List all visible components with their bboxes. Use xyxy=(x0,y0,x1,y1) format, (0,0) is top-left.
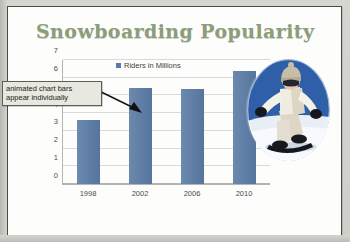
y-axis-tick-label: 6 xyxy=(54,63,58,72)
y-axis-tick-label: 0 xyxy=(54,171,58,180)
x-axis-labels: 1998200220062010 xyxy=(62,189,270,203)
callout-line-2: appear individually xyxy=(6,93,98,102)
scan-edge-left xyxy=(0,0,7,242)
plot-area: 01234567 xyxy=(62,60,270,185)
bar-chart: 01234567 1998200220062010 Riders in Mill… xyxy=(24,52,274,207)
x-axis-tick-label: 2006 xyxy=(166,189,218,203)
bar-cell xyxy=(115,60,167,184)
y-axis-tick-label: 1 xyxy=(54,153,58,162)
bar-series xyxy=(63,60,270,184)
scan-edge-bottom xyxy=(0,235,350,242)
bar-cell xyxy=(63,60,115,184)
y-axis-tick-label: 2 xyxy=(54,135,58,144)
snowboarder-photo xyxy=(247,59,330,161)
callout-line-1: animated chart bars xyxy=(6,84,98,93)
chart-bar xyxy=(181,89,204,184)
page-title: Snowboarding Popularity xyxy=(36,20,314,42)
legend-swatch-icon xyxy=(116,63,121,68)
y-axis-tick-label: 3 xyxy=(54,117,58,126)
chart-legend: Riders in Millions xyxy=(116,61,181,70)
chart-bar xyxy=(77,120,100,184)
legend-label: Riders in Millions xyxy=(124,61,181,70)
y-axis-tick-label: 7 xyxy=(54,46,58,55)
x-axis-tick-label: 1998 xyxy=(62,189,114,203)
screenshot-root: Snowboarding Popularity 01234567 1998200… xyxy=(0,0,350,242)
x-axis-tick-label: 2010 xyxy=(218,189,270,203)
bar-cell xyxy=(167,60,219,184)
x-axis-tick-label: 2002 xyxy=(114,189,166,203)
callout-note: animated chart bars appear individually xyxy=(2,81,102,106)
